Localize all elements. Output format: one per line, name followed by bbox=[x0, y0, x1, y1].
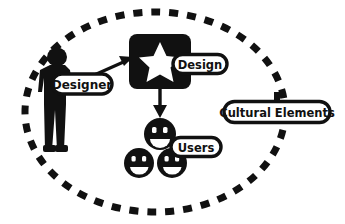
users-label: Users bbox=[178, 141, 215, 155]
users-label-pill[interactable]: Users bbox=[171, 138, 221, 157]
designer-label: Designer bbox=[52, 78, 113, 92]
smiley-face-bottom-left bbox=[124, 148, 154, 178]
design-label: Design bbox=[178, 58, 223, 72]
design-context-diagram: Designer Design Users Cultural Elements bbox=[0, 0, 345, 224]
cultural-elements-label-pill[interactable]: Cultural Elements bbox=[219, 102, 335, 123]
design-label-pill[interactable]: Design bbox=[173, 55, 227, 74]
designer-label-pill[interactable]: Designer bbox=[52, 74, 113, 94]
cultural-elements-label: Cultural Elements bbox=[219, 106, 335, 120]
